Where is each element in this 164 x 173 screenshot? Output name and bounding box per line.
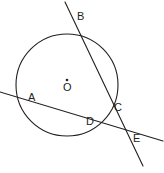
geometry-canvas: A B C D E O (0, 0, 164, 173)
label-point-b: B (77, 10, 84, 22)
geometry-diagram: A B C D E O (0, 0, 164, 173)
secant-line-bce (65, 2, 143, 166)
label-center-o: O (63, 81, 72, 93)
label-point-c: C (114, 101, 122, 113)
label-point-d: D (86, 115, 94, 127)
label-point-e: E (133, 132, 140, 144)
label-point-a: A (28, 91, 36, 103)
